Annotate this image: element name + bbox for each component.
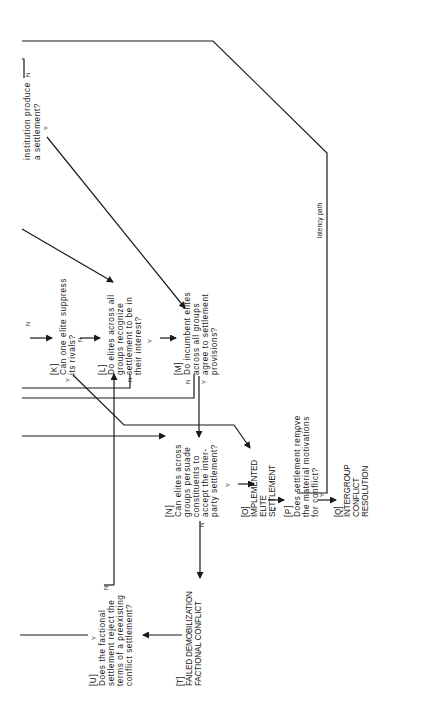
yes-label: Y (225, 483, 231, 487)
node-id: [O] (241, 507, 250, 517)
node-text: INTERGROUP (343, 464, 352, 517)
in-label: N (25, 322, 31, 326)
yes-label: Y (201, 380, 207, 384)
latency-path-label: latency path (316, 203, 324, 238)
node-text: provisions? (210, 327, 219, 375)
no-label: N (185, 380, 191, 384)
node-U: [U] Does the factional settlement reject… (89, 586, 134, 686)
node-text: ELITE (259, 495, 268, 517)
no-label: N (127, 378, 133, 382)
yes-label: Y (43, 126, 49, 130)
node-text: agree to settlement (201, 293, 210, 375)
node-top-decision: institution produce a settlement? Y N (23, 73, 49, 160)
node-text: Do elites across all (107, 294, 116, 375)
no-label: N (25, 73, 31, 77)
node-id: [T] (176, 677, 185, 686)
node-text: the material motivations (302, 416, 311, 517)
node-text: their interest? (134, 316, 143, 375)
node-text: Does the factional (98, 610, 107, 686)
no-label: N (103, 586, 109, 590)
yes-label: Y (319, 493, 325, 497)
yes-label: Y (65, 378, 71, 382)
node-text: FAILED DEMOBILIZATION (185, 591, 194, 686)
yes-label: Y (91, 636, 97, 640)
node-text: a settlement? (33, 103, 42, 160)
node-text: CONFLICT (352, 477, 361, 517)
node-text: for conflict? (311, 467, 320, 517)
node-text: across all groups (192, 303, 201, 375)
no-label: N (297, 428, 303, 432)
node-O-outcome: [O] IMPLEMENTED ELITE SETTLEMENT (241, 460, 277, 517)
no-label: N (77, 338, 83, 342)
node-id: [U] (89, 674, 98, 686)
node-Q-outcome: [Q] INTERGROUP CONFLICT RESOLUTION (334, 464, 370, 517)
edge-M-no (22, 374, 194, 398)
node-text: Can elites across (174, 444, 183, 517)
node-id: [P] (284, 505, 293, 517)
node-text: institution produce (23, 82, 32, 160)
node-text: terms of a preexisting (116, 595, 125, 686)
node-text: party settlement? (210, 444, 219, 517)
node-id: [Q] (334, 507, 343, 517)
node-T-outcome: [T] FAILED DEMOBILIZATION FACTIONAL CONF… (176, 591, 203, 686)
edge-to-L (22, 229, 113, 282)
node-id: [M] (174, 362, 183, 375)
node-P: [P] Does settlement remove the material … (284, 415, 325, 517)
flowchart-canvas: institution produce a settlement? Y N N … (0, 0, 428, 705)
node-text: FACTIONAL CONFLICT (194, 601, 203, 686)
node-text: Can one elite suppress (59, 278, 68, 375)
node-id: [N] (165, 505, 174, 517)
node-id: [L] (98, 364, 107, 375)
yes-label: Y (147, 339, 153, 343)
node-text: its rivals? (68, 334, 77, 375)
node-text: SETTLEMENT (268, 465, 277, 517)
node-text: settlement to be in (125, 297, 134, 375)
node-text: constituents to (192, 455, 201, 517)
node-text: RESOLUTION (361, 465, 370, 517)
node-M: [M] Do incumbent elites across all group… (174, 292, 219, 384)
edge-K-yes-to-O (73, 375, 250, 448)
top-no-bracket (22, 59, 24, 78)
node-text: accept the inter- (201, 448, 210, 517)
node-K: N [K] Can one elite suppress its rivals?… (25, 278, 83, 382)
node-text: groups recognize (116, 303, 125, 375)
node-L: [L] Do elites across all groups recogniz… (98, 294, 153, 382)
node-text: conflict settlement? (125, 604, 134, 686)
node-text: groups persuade (183, 447, 192, 517)
node-id: [K] (50, 363, 59, 375)
no-label: N (199, 523, 205, 527)
node-text: IMPLEMENTED (250, 460, 259, 517)
node-text: Do incumbent elites (183, 292, 192, 375)
node-text: settlement reject the (107, 600, 116, 686)
node-N: [N] Can elites across groups persuade co… (165, 444, 231, 527)
